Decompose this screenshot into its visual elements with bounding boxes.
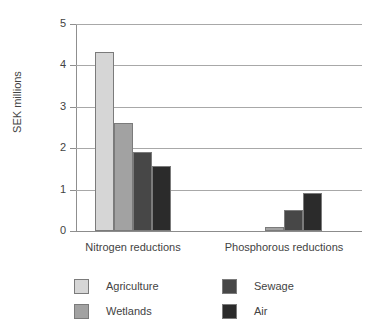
x-axis-label-1: Phosphorous reductions <box>214 241 354 253</box>
y-tick-label-0: 0 <box>44 225 66 236</box>
legend-label-wetlands: Wetlands <box>106 305 152 317</box>
bar-air-phosphorous <box>303 193 322 232</box>
y-tick-label-3: 3 <box>44 101 66 112</box>
legend-item-air[interactable]: Air <box>222 301 294 321</box>
legend-swatch-air <box>222 304 237 319</box>
legend-column-right: SewageAir <box>222 276 294 326</box>
legend-swatch-sewage <box>222 279 237 294</box>
legend-swatch-agriculture <box>74 279 89 294</box>
legend-swatch-wetlands <box>74 304 89 319</box>
y-tick-label-2: 2 <box>44 142 66 153</box>
gridline-5 <box>76 24 362 25</box>
gridline-4 <box>76 65 362 66</box>
x-axis-label-0: Nitrogen reductions <box>63 241 203 253</box>
y-tick-label-4: 4 <box>44 59 66 70</box>
legend-column-left: AgricultureWetlands <box>74 276 159 326</box>
legend-label-sewage: Sewage <box>254 280 294 292</box>
legend-label-agriculture: Agriculture <box>106 280 159 292</box>
legend-item-sewage[interactable]: Sewage <box>222 276 294 296</box>
y-axis-title: SEK millions <box>11 57 23 147</box>
bar-chart: SEK millions 543210 Nitrogen reductionsP… <box>0 0 382 329</box>
y-tick-label-5: 5 <box>44 18 66 29</box>
gridline-0 <box>76 231 362 232</box>
bar-air-nitrogen <box>152 166 171 231</box>
bar-wetlands-nitrogen <box>114 123 133 231</box>
bar-sewage-phosphorous <box>284 210 303 231</box>
legend-label-air: Air <box>254 305 267 317</box>
bar-wetlands-phosphorous <box>265 227 284 231</box>
legend-item-wetlands[interactable]: Wetlands <box>74 301 159 321</box>
bar-sewage-nitrogen <box>133 152 152 231</box>
y-tick-label-1: 1 <box>44 184 66 195</box>
legend-item-agriculture[interactable]: Agriculture <box>74 276 159 296</box>
gridline-3 <box>76 107 362 108</box>
bar-agriculture-nitrogen <box>95 52 114 231</box>
plot-area <box>76 24 362 231</box>
